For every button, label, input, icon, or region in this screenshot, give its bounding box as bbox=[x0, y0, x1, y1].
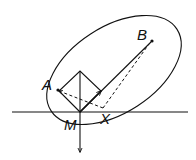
arrow-M-to-B bbox=[80, 91, 101, 112]
label-A: A bbox=[42, 77, 52, 92]
diagram-canvas: A B M X bbox=[0, 0, 196, 160]
dashed-line-X-to-B bbox=[103, 44, 149, 108]
point-B bbox=[150, 39, 153, 42]
point-A bbox=[56, 88, 59, 91]
label-X: X bbox=[100, 111, 110, 126]
ellipse-curve bbox=[28, 0, 196, 147]
label-M: M bbox=[64, 117, 77, 132]
dashed-line-M-to-A bbox=[61, 92, 80, 110]
dashed-line-X-to-A bbox=[59, 91, 103, 108]
label-B: B bbox=[137, 27, 147, 42]
diagram-svg bbox=[0, 0, 196, 160]
